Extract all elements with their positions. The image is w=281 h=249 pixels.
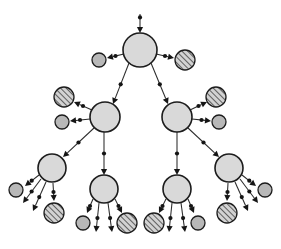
edge xyxy=(107,54,124,60)
edge-midpoint-dot-icon xyxy=(199,118,203,122)
edge xyxy=(159,199,166,213)
node-circle-hatched[interactable] xyxy=(117,213,137,233)
edge-line xyxy=(188,128,215,153)
edge xyxy=(190,102,207,110)
node-circle-small[interactable] xyxy=(258,183,272,197)
edge-midpoint-dot-icon xyxy=(168,216,172,220)
edge-midpoint-dot-icon xyxy=(37,195,41,199)
edge-midpoint-dot-icon xyxy=(201,140,205,144)
edge-midpoint-dot-icon xyxy=(189,204,193,208)
edge-midpoint-dot-icon xyxy=(138,15,142,19)
edge-midpoint-dot-icon xyxy=(158,82,162,86)
edge xyxy=(188,128,219,157)
edge-midpoint-dot-icon xyxy=(247,179,251,183)
arrowhead-icon xyxy=(137,27,143,33)
nodes-layer xyxy=(9,33,272,233)
edge-midpoint-dot-icon xyxy=(163,54,167,58)
edge xyxy=(94,203,100,232)
edge xyxy=(188,199,194,213)
arrowhead-icon xyxy=(167,54,174,60)
edge xyxy=(151,63,169,104)
node-circle-small[interactable] xyxy=(191,216,205,230)
edge-midpoint-dot-icon xyxy=(108,216,112,220)
arrowhead-icon xyxy=(174,169,180,175)
edge xyxy=(156,54,174,60)
node-circle-small[interactable] xyxy=(76,216,90,230)
edge xyxy=(51,183,57,201)
edge xyxy=(181,203,187,232)
arrowhead-icon xyxy=(181,226,187,232)
node-circle-large[interactable] xyxy=(123,33,157,67)
edge xyxy=(63,128,94,157)
node-circle-small[interactable] xyxy=(55,115,69,129)
edge-midpoint-dot-icon xyxy=(225,190,229,194)
edge-midpoint-dot-icon xyxy=(247,189,251,193)
edge-midpoint-dot-icon xyxy=(196,104,200,108)
edge-midpoint-dot-icon xyxy=(76,140,80,144)
edge-line xyxy=(151,63,166,98)
arrowhead-icon xyxy=(224,195,230,201)
edge xyxy=(101,132,107,175)
edge-line xyxy=(235,182,246,206)
node-circle-hatched[interactable] xyxy=(175,50,195,70)
node-circle-large[interactable] xyxy=(90,175,118,203)
edge-midpoint-dot-icon xyxy=(30,179,34,183)
edge xyxy=(137,14,143,33)
edge-line xyxy=(67,128,94,153)
edge xyxy=(192,117,211,123)
arrowhead-icon xyxy=(70,117,76,123)
edge-line xyxy=(35,182,46,206)
edge xyxy=(224,183,230,201)
node-circle-large[interactable] xyxy=(38,154,66,182)
edge-midpoint-dot-icon xyxy=(116,204,120,208)
node-circle-hatched[interactable] xyxy=(144,213,164,233)
node-circle-large[interactable] xyxy=(162,102,192,132)
node-circle-large[interactable] xyxy=(215,154,243,182)
arrowhead-icon xyxy=(101,169,107,175)
node-circle-hatched[interactable] xyxy=(44,203,64,223)
node-circle-hatched[interactable] xyxy=(217,203,237,223)
arrowhead-icon xyxy=(252,196,258,203)
arrowhead-icon xyxy=(94,226,100,232)
edge xyxy=(235,182,248,211)
edge xyxy=(174,132,180,175)
edge-midpoint-dot-icon xyxy=(30,189,34,193)
edge-midpoint-dot-icon xyxy=(181,216,185,220)
arrowhead-icon xyxy=(167,226,173,232)
edge-midpoint-dot-icon xyxy=(95,216,99,220)
edge xyxy=(167,203,173,232)
node-circle-hatched[interactable] xyxy=(54,87,74,107)
edge-line xyxy=(181,203,184,226)
edge xyxy=(112,63,129,104)
edge-midpoint-dot-icon xyxy=(113,54,117,58)
edge-midpoint-dot-icon xyxy=(160,204,164,208)
node-circle-small[interactable] xyxy=(9,183,23,197)
edge xyxy=(70,117,90,123)
edge-midpoint-dot-icon xyxy=(51,190,55,194)
node-circle-hatched[interactable] xyxy=(206,87,226,107)
arrowhead-icon xyxy=(51,195,57,201)
edge-line xyxy=(170,203,172,226)
node-circle-small[interactable] xyxy=(92,53,106,67)
edge-midpoint-dot-icon xyxy=(78,118,82,122)
edge-line xyxy=(97,203,99,226)
node-circle-small[interactable] xyxy=(212,115,226,129)
tree-network-diagram xyxy=(0,0,281,249)
edge xyxy=(33,182,46,211)
node-circle-large[interactable] xyxy=(163,175,191,203)
arrowhead-icon xyxy=(23,196,29,203)
edge-midpoint-dot-icon xyxy=(81,104,85,108)
diagram-canvas xyxy=(0,0,281,249)
edge-midpoint-dot-icon xyxy=(240,195,244,199)
edge-line xyxy=(115,63,129,98)
arrowhead-icon xyxy=(107,54,114,60)
edge-midpoint-dot-icon xyxy=(175,151,179,155)
edge-midpoint-dot-icon xyxy=(102,151,106,155)
arrowhead-icon xyxy=(205,117,211,123)
edge-midpoint-dot-icon xyxy=(119,82,123,86)
edge xyxy=(108,203,114,232)
edge-midpoint-dot-icon xyxy=(88,204,92,208)
edge-line xyxy=(108,203,111,226)
edge xyxy=(74,102,92,110)
node-circle-large[interactable] xyxy=(90,102,120,132)
